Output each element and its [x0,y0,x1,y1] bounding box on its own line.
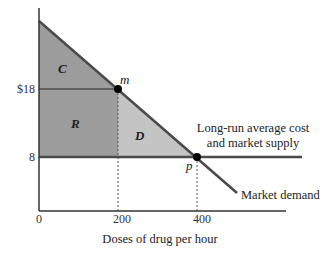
y-tick-18: $18 [17,82,35,96]
supply-label-line1: Long-run average cost [197,121,310,135]
region-d-label: D [134,128,145,143]
region-c-label: C [58,61,67,76]
x-tick-0: 0 [36,212,42,226]
supply-label-line2: and market supply [207,136,300,150]
x-axis-label: Doses of drug per hour [102,232,218,246]
demand-label: Market demand [241,188,321,202]
region-r-label: R [70,116,80,131]
x-tick-200: 200 [113,212,131,226]
y-tick-8: 8 [29,150,35,164]
x-tick-400: 400 [193,212,211,226]
point-p [193,153,201,161]
point-m-label: m [120,72,129,87]
monopoly-drug-market-chart: C R D m p $18 8 0 200 400 Doses of drug … [0,0,332,259]
point-p-label: p [185,158,193,173]
